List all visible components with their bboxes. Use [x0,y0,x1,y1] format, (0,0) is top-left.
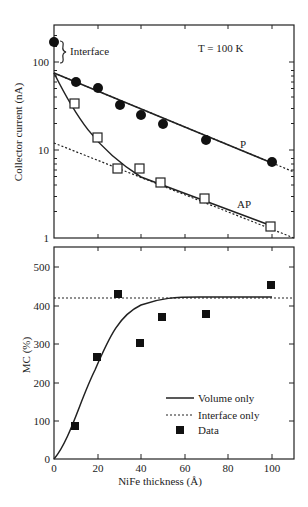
bottom-plot-frame [54,247,294,459]
temperature-label: T = 100 K [198,42,243,54]
bottom-ytick-300: 300 [34,338,51,350]
legend-data-swatch [176,426,184,434]
top-y-ticks [54,36,294,212]
bottom-x-ticks [98,247,272,459]
bottom-ytick-100: 100 [34,415,51,427]
interface-label: Interface [70,45,109,57]
top-ytick-10: 10 [38,144,50,156]
legend-volume-label: Volume only [198,392,255,404]
xtick-20: 20 [93,462,105,474]
ap-data-points [70,99,275,231]
xtick-60: 60 [180,462,192,474]
volume-only-curve [54,297,272,459]
legend-interface-label: Interface only [198,409,260,421]
bottom-y-axis-label: MC (%) [20,336,33,373]
xtick-40: 40 [136,462,148,474]
bottom-ytick-400: 400 [34,300,51,312]
xtick-100: 100 [264,462,281,474]
bottom-ytick-0: 0 [45,453,51,465]
top-ytick-100: 100 [33,56,50,68]
p-curve-label: P [240,138,246,150]
p-dotted-fit-line [54,73,294,172]
figure: 100 10 1 Collector current (nA) T = 100 … [0,0,308,507]
ap-curve-label: AP [237,198,251,210]
legend: Volume only Interface only Data [166,392,260,436]
x-axis-label: NiFe thickness (Å) [118,475,202,488]
interface-brace [60,41,66,63]
xtick-80: 80 [223,462,235,474]
xtick-0: 0 [51,462,57,474]
bottom-ytick-200: 200 [34,377,51,389]
bottom-ytick-500: 500 [34,261,51,273]
top-panel: 100 10 1 Collector current (nA) T = 100 … [12,25,294,244]
top-ytick-1: 1 [44,232,50,244]
bottom-panel: 500 400 300 200 100 0 0 20 40 60 80 100 … [20,247,294,488]
top-y-axis-label: Collector current (nA) [12,82,25,181]
legend-data-label: Data [198,424,219,436]
